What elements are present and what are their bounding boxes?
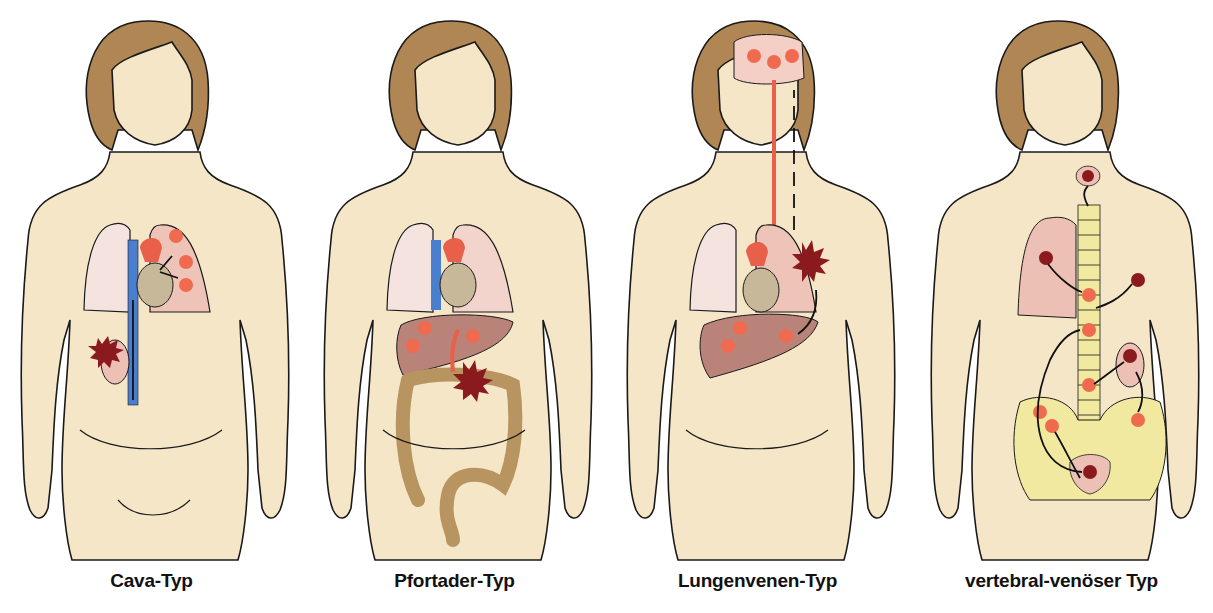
body-figure-cava bbox=[0, 0, 303, 613]
liver-metastasis bbox=[406, 339, 420, 353]
caption-cava-typ: Cava-Typ bbox=[0, 570, 303, 592]
pelvis-metastasis bbox=[1045, 419, 1059, 433]
primary-tumor-kidney bbox=[1123, 349, 1137, 363]
brain-metastasis bbox=[767, 55, 781, 69]
liver-metastasis bbox=[779, 329, 793, 343]
lung-metastasis bbox=[179, 278, 193, 292]
liver-metastasis bbox=[733, 321, 747, 335]
panel-vertebral-venoeser-typ: vertebral-venöser Typ bbox=[910, 0, 1213, 613]
vertebra-metastasis bbox=[1082, 378, 1096, 392]
panel-lungenvenen-typ: Lungenvenen-Typ bbox=[606, 0, 909, 613]
brain-metastasis bbox=[785, 49, 799, 63]
heart bbox=[743, 268, 779, 312]
lung-metastasis bbox=[179, 255, 193, 269]
body-figure-lungenvenen bbox=[606, 0, 909, 613]
caption-lungenvenen-typ: Lungenvenen-Typ bbox=[606, 570, 909, 592]
primary-tumor-bladder bbox=[1083, 465, 1097, 479]
body-figure-vertebral bbox=[910, 0, 1213, 613]
brain-metastasis bbox=[747, 49, 761, 63]
primary-tumor-thyroid bbox=[1082, 170, 1094, 182]
body-figure-pfortader bbox=[303, 0, 606, 613]
heart bbox=[440, 263, 476, 307]
pelvis-metastasis bbox=[1033, 405, 1047, 419]
vertebra-metastasis bbox=[1082, 323, 1096, 337]
primary-tumor-breast bbox=[1131, 273, 1145, 287]
liver-metastasis bbox=[721, 339, 735, 353]
panel-pfortader-typ: Pfortader-Typ bbox=[303, 0, 606, 613]
vertebra-metastasis bbox=[1082, 288, 1096, 302]
panel-cava-typ: Cava-Typ bbox=[0, 0, 303, 613]
liver-metastasis bbox=[418, 321, 432, 335]
liver-metastasis bbox=[466, 329, 480, 343]
lung-metastasis bbox=[169, 229, 183, 243]
primary-tumor-lung bbox=[1039, 251, 1053, 265]
caption-vertebral-venoeser-typ: vertebral-venöser Typ bbox=[910, 570, 1213, 592]
body-outline bbox=[21, 152, 289, 560]
heart bbox=[137, 263, 173, 307]
vena-cava bbox=[431, 240, 441, 310]
pelvis-metastasis bbox=[1131, 413, 1145, 427]
caption-pfortader-typ: Pfortader-Typ bbox=[303, 570, 606, 592]
